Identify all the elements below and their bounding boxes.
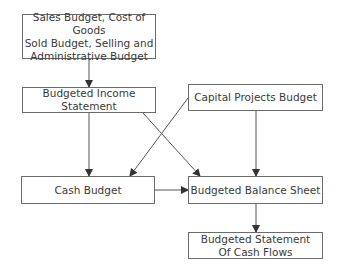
node-sales-cogs-sga-budget: Sales Budget, Cost of Goods Sold Budget,… bbox=[22, 14, 156, 59]
node-label: Sales Budget, Cost of Goods Sold Budget,… bbox=[23, 11, 155, 63]
node-budgeted-statement-of-cash-flows: Budgeted Statement Of Cash Flows bbox=[188, 232, 323, 259]
node-label: Budgeted Balance Sheet bbox=[191, 184, 321, 197]
node-label: Cash Budget bbox=[55, 184, 122, 197]
node-cash-budget: Cash Budget bbox=[21, 176, 155, 204]
node-budgeted-balance-sheet: Budgeted Balance Sheet bbox=[188, 176, 323, 204]
node-capital-projects-budget: Capital Projects Budget bbox=[188, 84, 323, 111]
edge-income-to-balance bbox=[143, 113, 200, 176]
node-budgeted-income-statement: Budgeted Income Statement bbox=[22, 87, 156, 113]
node-label: Capital Projects Budget bbox=[194, 91, 317, 104]
node-label: Budgeted Income Statement bbox=[43, 87, 136, 113]
node-label: Budgeted Statement Of Cash Flows bbox=[201, 233, 310, 259]
